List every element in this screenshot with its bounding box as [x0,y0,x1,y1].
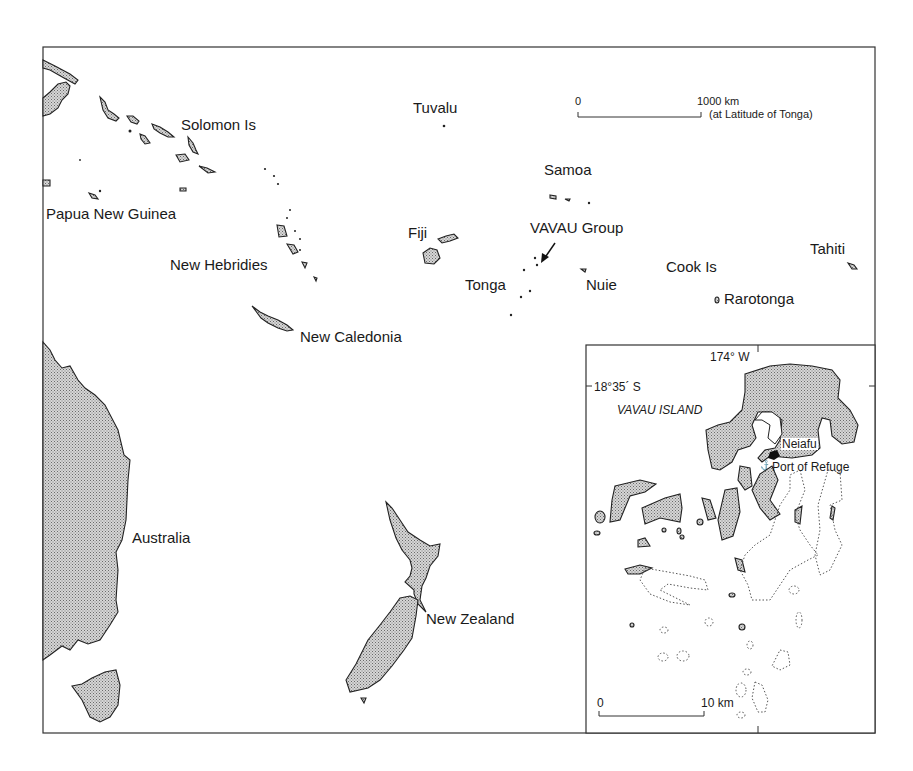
new-zealand-landmass [346,502,440,703]
new-hebridies-islands [277,209,317,281]
tahiti-island [848,263,857,269]
inset-island-name: VAVAU ISLAND [617,404,702,416]
scale-bar-1000km [578,112,701,117]
rarotonga-island [715,297,719,303]
nuie-island [581,269,586,272]
inset-town-neiafu: Neiafu [781,438,818,450]
label-solomon-is: Solomon Is [181,117,256,132]
inset-scale-end: 10 km [701,697,734,709]
inset-latitude: 18°35´ S [594,381,641,393]
label-nuie: Nuie [586,277,617,292]
inset-scale-start: 0 [597,697,604,709]
label-samoa: Samoa [544,162,592,177]
inset-longitude: 174° W [710,351,749,363]
scale-bar-start: 0 [575,96,581,107]
australia-landmass [43,342,130,660]
label-fiji: Fiji [408,225,427,240]
new-caledonia-island [252,306,293,331]
papua-new-guinea-landmass [43,60,101,199]
vavau-arrow [541,243,555,263]
label-tahiti: Tahiti [810,241,845,256]
fiji-islands [423,234,458,264]
samoa-islands [550,195,590,204]
label-australia: Australia [132,530,190,545]
label-new-zealand: New Zealand [426,611,514,626]
label-tonga: Tonga [465,277,506,292]
inset-port-of-refuge: Port of Refuge [772,461,849,473]
tonga-islands [510,257,538,316]
scale-bar-end: 1000 km [697,96,739,107]
label-new-hebridies: New Hebridies [170,257,268,272]
scale-bar-note: (at Latitude of Tonga) [709,109,813,120]
label-rarotonga: Rarotonga [724,291,794,306]
label-cook-is: Cook Is [666,259,717,274]
label-vavau-group: VAVAU Group [530,220,623,235]
tuvalu-island [443,125,446,128]
solomon-islands [100,97,279,191]
tasmania-island [72,670,120,722]
label-tuvalu: Tuvalu [413,100,457,115]
label-papua-new-guinea: Papua New Guinea [46,206,176,221]
label-new-caledonia: New Caledonia [300,329,402,344]
